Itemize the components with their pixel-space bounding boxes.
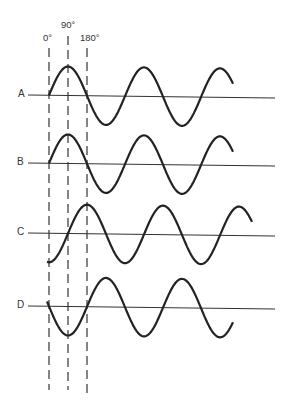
wave-axis-b (28, 163, 275, 166)
wave-label-a: A (18, 89, 25, 99)
wave-axis-d (28, 306, 275, 309)
wave-axis-a (28, 95, 275, 98)
wave-label-d: D (17, 300, 24, 310)
marker-label-90: 90° (61, 20, 75, 30)
phase-diagram (0, 0, 288, 411)
marker-label-0: 0° (43, 33, 52, 43)
wave-label-c: C (17, 227, 24, 237)
wave-axis-c (28, 233, 275, 236)
wave-axes (28, 95, 275, 309)
marker-label-180: 180° (80, 33, 100, 43)
wave-curves (47, 67, 252, 338)
wave-label-b: B (17, 157, 24, 167)
phase-marker-lines (49, 36, 87, 394)
